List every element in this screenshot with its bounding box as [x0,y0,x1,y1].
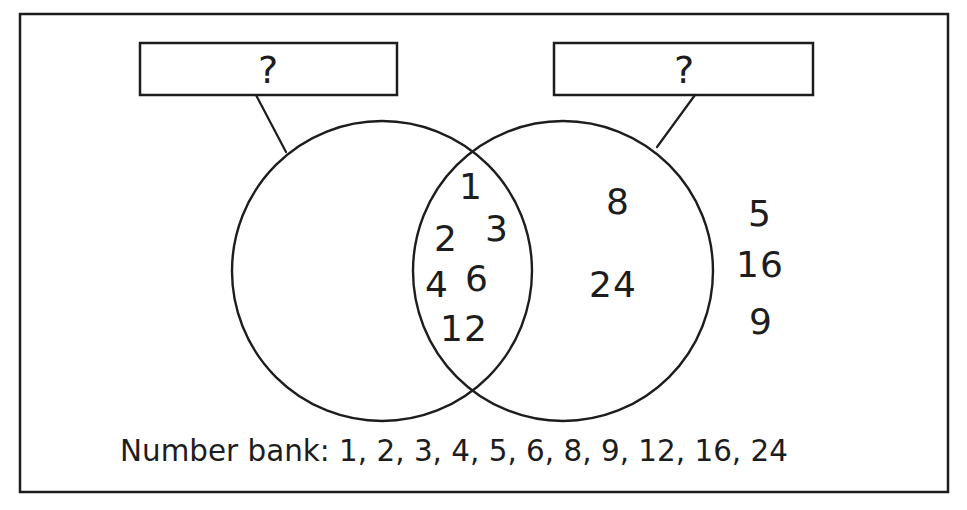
right-venn-circle [413,121,713,421]
left-box-question-mark: ? [258,48,278,92]
outside-number: 16 [736,244,784,285]
intersection-number: 3 [485,208,509,249]
intersection-number: 12 [440,308,488,349]
right-circle-number: 8 [606,181,630,222]
left-connector-line [256,95,286,152]
number-bank-text: Number bank: 1, 2, 3, 4, 5, 6, 8, 9, 12,… [120,432,788,468]
right-circle-number: 24 [589,264,637,305]
outside-number: 9 [749,301,773,342]
intersection-number: 4 [425,264,449,305]
venn-diagram: ? ? 1 3 2 6 4 12 8 24 5 16 9 Number bank… [0,0,967,510]
intersection-number: 2 [434,218,458,259]
intersection-number: 1 [459,166,483,207]
outer-border [20,14,948,492]
right-box-question-mark: ? [674,48,694,92]
diagram-strokes [20,14,948,492]
intersection-number: 6 [465,258,489,299]
worksheet-page: ? ? 1 3 2 6 4 12 8 24 5 16 9 Number bank… [0,0,967,510]
outside-number: 5 [748,193,772,234]
right-connector-line [657,95,695,147]
diagram-texts: ? ? 1 3 2 6 4 12 8 24 5 16 9 Number bank… [120,48,788,468]
